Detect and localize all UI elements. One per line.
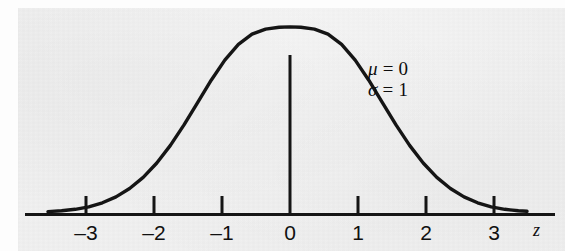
tick-label-2: 2 [404, 222, 448, 243]
x-axis-label: z [533, 221, 540, 239]
tick-label-minus-1: –1 [200, 222, 244, 243]
normal-curve-plot [0, 0, 565, 251]
normal-distribution-figure: μ = 0 σ = 1 –3 –2 –1 0 1 2 3 z [0, 0, 565, 251]
sigma-equals: = [383, 79, 394, 100]
tick-label-minus-3: –3 [64, 222, 108, 243]
bell-curve-path [48, 27, 527, 212]
tick-label-minus-2: –2 [132, 222, 176, 243]
mu-value: 0 [399, 58, 409, 79]
annotation-mu: μ = 0 [368, 58, 408, 79]
tick-label-0: 0 [268, 222, 312, 243]
annotation-sigma: σ = 1 [368, 79, 408, 100]
mu-equals: = [383, 58, 394, 79]
mu-symbol: μ [368, 58, 378, 79]
sigma-symbol: σ [368, 79, 378, 100]
sigma-value: 1 [398, 79, 408, 100]
tick-label-3: 3 [472, 222, 516, 243]
tick-label-1: 1 [336, 222, 380, 243]
